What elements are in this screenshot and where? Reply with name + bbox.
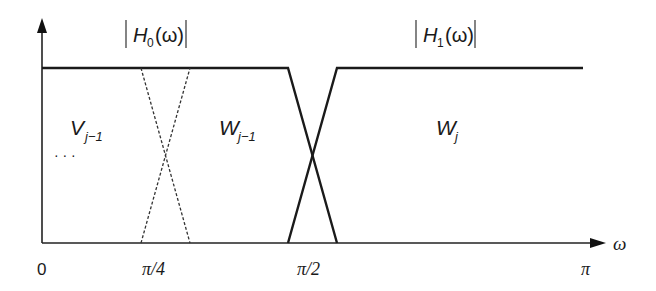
- svg-text:V: V: [70, 116, 86, 139]
- svg-text:H: H: [423, 24, 438, 46]
- ellipsis: · · ·: [54, 147, 76, 163]
- x-axis-label: ω: [613, 233, 626, 254]
- svg-text:j−1: j−1: [83, 129, 103, 144]
- tick-0: 0: [37, 260, 46, 279]
- svg-text:1: 1: [437, 36, 444, 50]
- x-axis-arrow-icon: [590, 238, 606, 248]
- svg-text:0: 0: [147, 36, 154, 50]
- tick-pi: π: [581, 259, 591, 279]
- svg-text:(ω): (ω): [155, 24, 184, 46]
- h1-label: H 1 (ω): [416, 20, 475, 50]
- h0-label: H 0 (ω): [126, 20, 186, 50]
- region-v-label: V j−1: [70, 116, 103, 144]
- svg-text:H: H: [133, 24, 148, 46]
- y-axis-arrow-icon: [37, 18, 47, 33]
- h0-response: [42, 68, 337, 243]
- svg-text:j−1: j−1: [236, 129, 256, 144]
- svg-text:(ω): (ω): [445, 24, 474, 46]
- region-w2-label: W j: [436, 116, 459, 144]
- h1-response: [288, 68, 583, 243]
- region-w1-label: W j−1: [219, 116, 256, 144]
- filter-bank-diagram: H 0 (ω) H 1 (ω) V j−1 · · · W j−1 W j ω …: [0, 0, 656, 291]
- tick-pi-2: π/2: [297, 259, 320, 279]
- tick-pi-4: π/4: [142, 259, 165, 279]
